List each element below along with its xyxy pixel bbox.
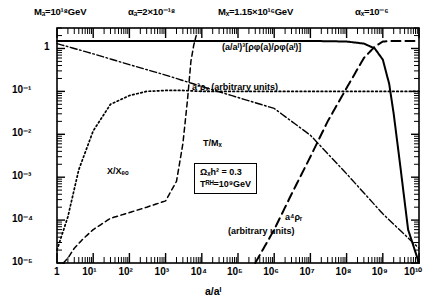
x-tick-label: 10¹ <box>82 266 96 277</box>
m-phi-param: Mₐ=10¹⁸GeV <box>34 6 86 17</box>
parameter-box: Ωₓh² = 0.3 Tᴿᴴ=10⁹GeV <box>194 163 257 194</box>
plot-canvas <box>0 0 437 305</box>
x-tick-label: 10⁸ <box>336 266 352 277</box>
r-density-label-line1: a⁴ρᵣ <box>285 212 302 222</box>
y-tick-label: 10⁻² <box>12 127 31 138</box>
y-tick-label: 10⁻¹ <box>12 84 31 95</box>
x-tick-label: 1 <box>54 266 60 277</box>
m-x-param: Mₓ=1.15×10¹⁶GeV <box>218 6 293 17</box>
curve-2 <box>57 44 419 249</box>
r-density-label-line2: (arbitrary units) <box>228 226 295 236</box>
y-tick-label: 10⁻³ <box>12 170 31 181</box>
x-axis-title: a/aᴵ <box>205 285 222 297</box>
x-tick-label: 10⁶ <box>263 266 279 277</box>
x-tick-label: 10⁹ <box>372 266 388 277</box>
x-tick-label: 10³ <box>155 266 169 277</box>
trh-line: Tᴿᴴ=10⁹GeV <box>200 178 251 190</box>
x-tick-label: 10⁴ <box>191 266 207 277</box>
alpha-phi-param: αₐ=2×10⁻¹⁸ <box>128 6 175 17</box>
x-over-xeq-label: X/Xₑₒ <box>107 166 129 176</box>
omega-line: Ωₓh² = 0.3 <box>200 166 251 178</box>
x-tick-label: 10⁵ <box>227 266 243 277</box>
y-tick-label: 1 <box>44 41 50 52</box>
x-tick-label: 10⁷ <box>299 266 314 277</box>
curve-3 <box>63 36 196 263</box>
y-tick-label: 10⁻⁴ <box>12 213 33 224</box>
figure-panel: Mₐ=10¹⁸GeV αₐ=2×10⁻¹⁸ Mₓ=1.15×10¹⁶GeV αₓ… <box>0 0 437 305</box>
x-tick-label: 10¹⁰ <box>404 266 422 277</box>
x-density-label: a³ρₓ (arbitrary units) <box>192 82 278 92</box>
y-tick-label: 10⁻⁵ <box>12 256 33 267</box>
phi-density-label: (a/aᴵ)³[ρφ(a)/ρφ(aᴵ)] <box>222 42 301 52</box>
alpha-x-param: αₓ=10⁻⁶ <box>355 6 388 17</box>
temperature-label: T/Mₓ <box>203 138 222 148</box>
x-tick-label: 10² <box>118 266 132 277</box>
